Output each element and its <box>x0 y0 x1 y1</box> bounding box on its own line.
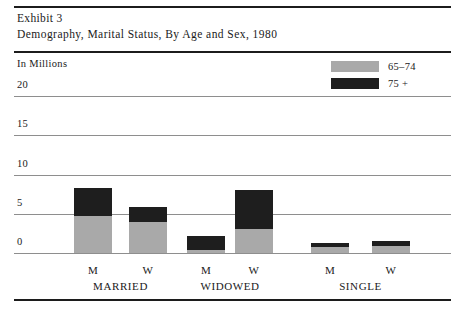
bar-segment-65-74 <box>129 222 167 253</box>
bar-segment-75-plus <box>235 190 273 228</box>
bar-segment-65-74 <box>235 229 273 253</box>
x-label-single-w: W <box>386 264 397 276</box>
exhibit-title: Demography, Marital Status, By Age and S… <box>17 26 437 42</box>
bar-widowed-m <box>187 236 225 253</box>
bar-segment-65-74 <box>372 246 410 253</box>
exhibit-figure: Exhibit 3 Demography, Marital Status, By… <box>0 0 465 318</box>
exhibit-number: Exhibit 3 <box>17 10 437 26</box>
x-axis-labels: MWMWMWMARRIEDWIDOWEDSINGLE <box>14 258 451 296</box>
legend-item-65-74: 65–74 <box>331 60 451 73</box>
legend-label-65-74: 65–74 <box>388 61 416 72</box>
bar-segment-65-74 <box>74 216 112 253</box>
top-rule <box>14 6 451 8</box>
x-label-widowed-m: M <box>201 264 211 276</box>
plot-area: 05101520 <box>14 75 451 257</box>
bars-layer <box>14 75 451 257</box>
x-label-married-m: M <box>88 264 98 276</box>
bottom-rule <box>14 299 451 301</box>
bar-single-w <box>372 241 410 253</box>
bar-segment-65-74 <box>311 247 349 253</box>
bar-segment-75-plus <box>74 188 112 216</box>
x-group-label-widowed: WIDOWED <box>200 280 259 292</box>
bar-segment-75-plus <box>187 236 225 250</box>
bar-widowed-w <box>235 190 273 253</box>
exhibit-heading: Exhibit 3 Demography, Marital Status, By… <box>17 10 437 42</box>
x-label-single-m: M <box>325 264 335 276</box>
bar-segment-75-plus <box>129 207 167 221</box>
x-group-label-single: SINGLE <box>339 280 382 292</box>
x-label-widowed-w: W <box>249 264 260 276</box>
y-axis-unit-caption: In Millions <box>17 58 67 69</box>
bar-married-w <box>129 207 167 253</box>
bar-segment-65-74 <box>187 250 225 253</box>
x-group-label-married: MARRIED <box>93 280 148 292</box>
x-label-married-w: W <box>143 264 154 276</box>
legend-swatch-65-74 <box>331 61 379 72</box>
heading-divider-rule <box>14 51 451 53</box>
bar-married-m <box>74 188 112 253</box>
bar-single-m <box>311 243 349 253</box>
